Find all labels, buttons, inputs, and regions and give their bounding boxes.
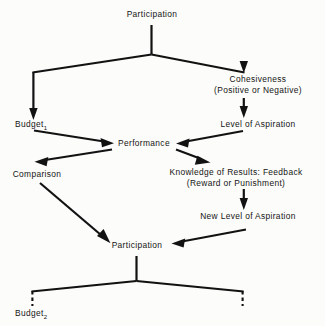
flow-diagram-canvas (0, 0, 325, 326)
node-participation-bottom-label: Participation (112, 240, 163, 250)
node-level-of-aspiration-label: Level of Aspiration (220, 119, 295, 129)
node-new-level-of-aspiration: New Level of Aspiration (200, 211, 296, 222)
edge-fork-top-left-diagonal (33, 55, 152, 73)
node-participation-top: Participation (127, 9, 178, 20)
arrow-head-performance-to-knowledge (195, 156, 211, 165)
edge-fork-bottom-right-diagonal (137, 281, 244, 292)
node-performance-label: Performance (118, 138, 170, 148)
edge-performance-to-knowledge (176, 150, 200, 159)
arrow-head-budget1-to-performance (101, 138, 115, 147)
node-comparison: Comparison (13, 169, 62, 180)
arrow-head-performance-to-comparison (35, 157, 49, 166)
arrow-head-comparison-to-participation (97, 229, 111, 243)
arrow-head-level-to-performance (176, 138, 190, 147)
arrow-head-to-level-of-aspiration (240, 106, 248, 118)
edge-fork-top-right-diagonal (152, 55, 245, 73)
node-budget-1-label: Budget (15, 119, 44, 129)
node-knowledge-of-results-label: Knowledge of Results: Feedback (170, 167, 303, 177)
node-budget-2-subscript: 2 (44, 314, 47, 320)
node-participation-top-label: Participation (127, 9, 178, 19)
flow-diagram: Participation Cohesiveness (Positive or … (0, 0, 325, 326)
node-knowledge-of-results: Knowledge of Results: Feedback (Reward o… (170, 167, 303, 188)
node-budget-2-label: Budget (15, 308, 44, 318)
node-knowledge-of-results-sublabel: (Reward or Punishment) (170, 178, 303, 189)
node-comparison-label: Comparison (13, 169, 62, 179)
edge-comparison-to-participation (40, 183, 101, 235)
edge-performance-to-comparison (45, 150, 112, 161)
node-level-of-aspiration: Level of Aspiration (220, 119, 295, 130)
node-cohesiveness: Cohesiveness (Positive or Negative) (214, 74, 302, 95)
node-budget-1: Budget1 (15, 119, 47, 133)
node-performance: Performance (118, 138, 170, 149)
node-cohesiveness-sublabel: (Positive or Negative) (214, 85, 302, 96)
node-budget-1-subscript: 1 (44, 125, 47, 131)
node-new-level-of-aspiration-label: New Level of Aspiration (200, 211, 296, 221)
node-budget-2: Budget2 (15, 308, 47, 322)
node-participation-bottom: Participation (112, 240, 163, 251)
edge-level-of-aspiration-to-performance (186, 131, 243, 142)
edge-fork-bottom-left-diagonal (32, 281, 137, 292)
arrow-head-to-new-level-of-aspiration (240, 198, 248, 210)
arrow-head-new-level-to-participation (172, 238, 186, 247)
edge-new-level-to-participation (182, 230, 246, 242)
node-cohesiveness-label: Cohesiveness (230, 74, 287, 84)
